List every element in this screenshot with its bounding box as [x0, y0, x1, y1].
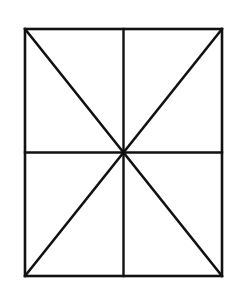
figure-canvas [0, 0, 243, 286]
